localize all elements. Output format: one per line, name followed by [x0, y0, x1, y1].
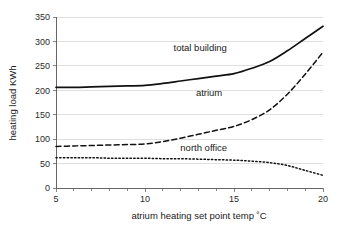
y-tick-label-200: 200 — [35, 86, 50, 96]
chart-canvas: 050100150200250300350 5101520 total buil… — [0, 0, 341, 231]
x-tick-label-10: 10 — [140, 194, 150, 204]
chart-figure: 050100150200250300350 5101520 total buil… — [0, 0, 341, 231]
series-label-north-office: north office — [180, 142, 227, 153]
x-tick-label-15: 15 — [229, 194, 239, 204]
series-line-atrium — [56, 52, 323, 146]
series-label-total-building: total building — [174, 42, 227, 53]
series-line-north-office — [56, 158, 323, 176]
x-axis-title: atrium heating set point temp ˚C — [131, 210, 266, 221]
y-tick-label-350: 350 — [35, 12, 50, 22]
x-tick-label-5: 5 — [53, 194, 58, 204]
x-axis-tick-labels: 5101520 — [53, 194, 328, 204]
y-axis-tick-labels: 050100150200250300350 — [35, 12, 50, 193]
y-tick-label-250: 250 — [35, 61, 50, 71]
series-label-atrium: atrium — [196, 87, 222, 98]
y-tick-label-150: 150 — [35, 110, 50, 120]
x-tick-label-20: 20 — [318, 194, 328, 204]
series-annotations-group: total buildingatriumnorth office — [174, 42, 228, 154]
series-line-total-building — [56, 26, 323, 87]
y-tick-label-100: 100 — [35, 134, 50, 144]
y-tick-label-300: 300 — [35, 37, 50, 47]
y-tick-label-50: 50 — [40, 159, 50, 169]
y-axis-title: heating load KWh — [7, 66, 18, 141]
y-tick-label-0: 0 — [45, 183, 50, 193]
